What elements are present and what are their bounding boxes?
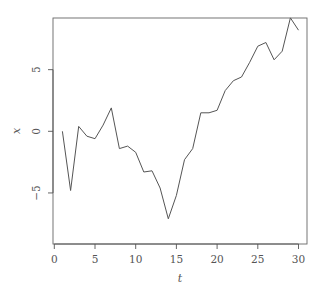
x-tick-label: 5 <box>92 253 99 265</box>
y-axis-label: x <box>10 127 23 134</box>
data-series-line <box>62 18 298 219</box>
plot-frame <box>53 18 307 244</box>
x-tick-label: 20 <box>210 253 223 265</box>
x-tick-label: 15 <box>170 253 183 265</box>
x-tick-label: 25 <box>251 253 264 265</box>
y-tick-label: 5 <box>30 66 42 73</box>
x-axis-label: t <box>178 272 183 285</box>
x-tick-label: 30 <box>292 253 305 265</box>
line-chart: 051015202530 −505 t x <box>0 0 326 295</box>
y-tick-label: 0 <box>30 128 42 135</box>
x-tick-label: 10 <box>129 253 142 265</box>
y-axis: −505 <box>30 66 53 200</box>
x-tick-label: 0 <box>51 253 58 265</box>
x-axis: 051015202530 <box>51 244 305 265</box>
y-tick-label: −5 <box>30 185 42 200</box>
